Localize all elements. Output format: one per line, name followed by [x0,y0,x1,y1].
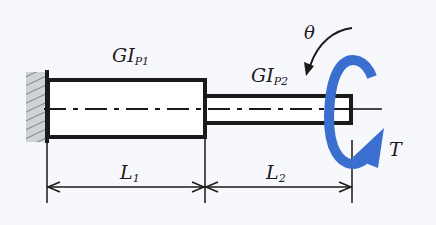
label-l2: L2 [266,161,286,185]
label-l2-main: L [266,161,279,183]
fixed-wall-support [26,70,47,143]
label-gi-p2: GIP2 [251,64,288,88]
label-l1: L1 [120,161,140,185]
label-gi-p2-main: GI [251,64,274,86]
torsion-shaft-diagram: GIP1 GIP2 θ T L1 L2 [0,0,436,225]
label-l1-main: L [120,161,133,183]
label-gi-p1-main: GI [112,44,135,66]
label-torque-t: T [389,138,402,160]
label-gi-p1: GIP1 [112,44,149,68]
label-gi-p1-sub: P1 [135,55,149,68]
label-l2-sub: 2 [279,172,286,185]
diagram-graphics [0,0,436,225]
label-l1-sub: 1 [133,172,140,185]
extension-lines [47,138,352,203]
label-theta: θ [304,22,315,43]
label-gi-p2-sub: P2 [274,75,288,88]
